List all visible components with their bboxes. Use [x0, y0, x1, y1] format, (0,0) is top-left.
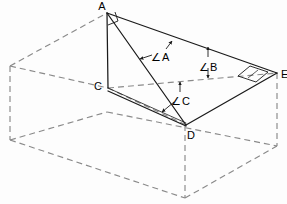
hidden-edge-bottom-left-back	[10, 112, 107, 140]
angle-C-symbol: ∠	[171, 95, 181, 107]
angle-A-symbol: ∠	[151, 51, 161, 63]
geometry-figure: ∠A ∠B ∠C A C D E	[0, 0, 287, 204]
angle-A-arrow-to-AE	[166, 41, 172, 49]
vertex-label-A: A	[98, 0, 106, 12]
angle-A-text: A	[162, 51, 170, 63]
geometry-canvas: ∠A ∠B ∠C A C D E	[0, 0, 287, 204]
edge-A-C	[107, 13, 108, 88]
right-angle-at-E-tick	[248, 70, 258, 78]
edge-A-E	[107, 13, 277, 73]
angle-labels-group: ∠A ∠B ∠C	[151, 51, 217, 107]
angle-B-symbol: ∠	[199, 61, 209, 73]
angle-B-label: ∠B	[199, 61, 217, 73]
vertex-labels-group: A C D E	[94, 0, 287, 141]
hidden-edge-top-back-left-to-A	[10, 13, 107, 66]
vertex-label-E: E	[281, 68, 287, 80]
solid-edges-group	[107, 13, 277, 126]
hidden-edges-group	[10, 13, 277, 198]
hidden-edge-bottom-left-front	[10, 140, 185, 198]
angle-B-text: B	[210, 61, 217, 73]
vertex-label-C: C	[94, 80, 102, 92]
hidden-edge-bottom-front-right	[185, 146, 277, 198]
angle-A-label: ∠A	[151, 51, 170, 63]
right-angle-marks-group	[108, 12, 268, 82]
angle-C-text: C	[182, 95, 190, 107]
edge-D-E	[186, 73, 277, 125]
vertex-label-D: D	[187, 129, 195, 141]
angle-C-label: ∠C	[171, 95, 190, 107]
